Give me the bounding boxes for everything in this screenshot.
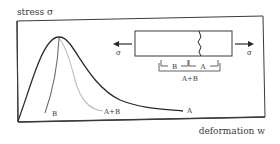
bracket-a-plus-b bbox=[159, 63, 220, 71]
curve-b-label: B bbox=[52, 110, 57, 118]
stress-deformation-diagram: stress σ deformation w B A+B A σ σ B A A… bbox=[0, 0, 280, 144]
specimen-bar bbox=[135, 31, 232, 56]
curve-a-plus-b bbox=[59, 38, 103, 111]
x-axis-label: deformation w bbox=[199, 126, 266, 136]
specimen-inset: σ σ B A A+B bbox=[113, 31, 254, 83]
y-axis-label: stress σ bbox=[17, 7, 53, 17]
left-arrow-icon bbox=[113, 41, 119, 47]
bracket-b-right bbox=[181, 60, 188, 66]
segment-b-label: B bbox=[172, 63, 177, 71]
curve-b bbox=[45, 38, 59, 113]
bracket-b-left bbox=[161, 60, 168, 66]
bracket-a-left bbox=[189, 60, 196, 66]
right-arrow-icon bbox=[248, 41, 254, 47]
y-axis bbox=[17, 21, 18, 122]
right-sigma-label: σ bbox=[247, 49, 252, 57]
bracket-a-right bbox=[210, 60, 218, 66]
curve-a-label: A bbox=[186, 107, 193, 115]
curve-a-plus-b-label: A+B bbox=[103, 108, 120, 116]
left-sigma-label: σ bbox=[116, 49, 121, 57]
segment-a-plus-b-label: A+B bbox=[181, 75, 198, 83]
segment-a-label: A bbox=[199, 63, 206, 71]
